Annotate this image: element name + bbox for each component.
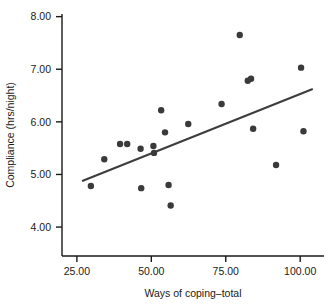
data-point (248, 76, 254, 82)
data-point (237, 32, 243, 38)
data-point (138, 185, 144, 191)
data-point (162, 129, 168, 135)
x-tick-label: 25.00 (64, 265, 90, 277)
x-tick-label: 75.00 (213, 265, 239, 277)
data-point (300, 128, 306, 134)
y-tick-label: 5.00 (31, 168, 52, 180)
y-tick-label: 8.00 (31, 10, 52, 22)
data-point (151, 150, 157, 156)
y-axis-title: Compliance (hrs/night) (4, 82, 16, 188)
data-point (88, 183, 94, 189)
data-point (273, 162, 279, 168)
plot-canvas: 4.005.006.007.008.00 25.0050.0075.00100.… (0, 0, 330, 307)
data-point (250, 125, 256, 131)
data-point (167, 202, 173, 208)
data-point (298, 64, 304, 70)
data-point (117, 141, 123, 147)
data-point (185, 121, 191, 127)
y-tick-label: 4.00 (31, 221, 52, 233)
y-tick-label: 7.00 (31, 63, 52, 75)
x-tick-label: 50.00 (138, 265, 164, 277)
plot-background (0, 0, 330, 307)
data-point (137, 145, 143, 151)
data-point (124, 141, 130, 147)
x-axis-title: Ways of coping–total (144, 287, 241, 299)
data-point (158, 107, 164, 113)
y-tick-label: 6.00 (31, 116, 52, 128)
x-tick-label: 100.00 (284, 265, 316, 277)
scatter-plot-figure: 4.005.006.007.008.00 25.0050.0075.00100.… (0, 0, 330, 307)
data-point (165, 182, 171, 188)
data-point (218, 101, 224, 107)
data-point (101, 156, 107, 162)
data-point (150, 143, 156, 149)
